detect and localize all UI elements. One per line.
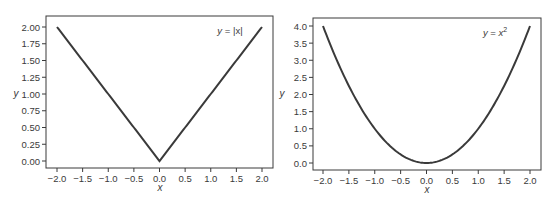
y-tick-label: 3.5 xyxy=(294,38,307,49)
y-axis-ticks: 0.00.51.01.52.02.53.03.54.0 xyxy=(294,21,313,169)
y-tick-label: 4.0 xyxy=(294,21,307,32)
plot-area xyxy=(313,18,541,170)
x-tick-label: 2.0 xyxy=(255,173,268,184)
x-tick-label: 0.5 xyxy=(179,173,192,184)
x-tick-label: 1.5 xyxy=(230,173,243,184)
x-tick-label: 0.5 xyxy=(446,175,459,186)
x-tick-label: −1.5 xyxy=(339,175,358,186)
x-tick-label: 1.0 xyxy=(204,173,217,184)
y-tick-label: 1.0 xyxy=(294,123,307,134)
y-tick-label: 2.5 xyxy=(294,72,307,83)
y-tick-label: 2.0 xyxy=(294,89,307,100)
y-tick-label: 1.50 xyxy=(22,55,41,66)
x-axis-label: x xyxy=(424,184,431,195)
x-tick-label: 2.0 xyxy=(523,175,536,186)
y-tick-label: 0.75 xyxy=(22,105,41,116)
y-tick-label: 0.50 xyxy=(22,122,41,133)
y-tick-label: 0.25 xyxy=(22,139,41,150)
y-tick-label: 0.00 xyxy=(22,156,41,167)
y-tick-label: 0.0 xyxy=(294,158,307,169)
x-tick-label: −1.0 xyxy=(99,173,118,184)
x-tick-label: 1.5 xyxy=(498,175,511,186)
function-annotation: y = |x| xyxy=(216,25,242,36)
x-tick-label: −0.5 xyxy=(391,175,410,186)
y-axis-label: y xyxy=(13,88,20,99)
chart-square: 0.00.51.01.52.02.53.03.54.0 −2.0−1.5−1.0… xyxy=(279,18,542,195)
y-tick-label: 1.5 xyxy=(294,106,307,117)
x-axis-label: x xyxy=(157,182,164,193)
y-tick-label: 1.25 xyxy=(22,72,41,83)
y-tick-label: 3.0 xyxy=(294,55,307,66)
plot-area xyxy=(46,16,273,168)
y-tick-label: 1.00 xyxy=(22,89,41,100)
x-tick-label: −1.0 xyxy=(365,175,384,186)
figure: 0.000.250.500.751.001.251.501.752.00 −2.… xyxy=(0,0,552,206)
y-axis-ticks: 0.000.250.500.751.001.251.501.752.00 xyxy=(22,22,47,167)
y-axis-label: y xyxy=(279,88,286,99)
x-tick-label: −2.0 xyxy=(48,173,67,184)
y-tick-label: 0.5 xyxy=(294,140,307,151)
x-tick-label: −1.5 xyxy=(73,173,92,184)
chart-abs: 0.000.250.500.751.001.251.501.752.00 −2.… xyxy=(13,16,274,193)
y-tick-label: 1.75 xyxy=(22,38,41,49)
x-tick-label: −2.0 xyxy=(314,175,333,186)
y-tick-label: 2.00 xyxy=(22,22,41,33)
x-tick-label: −0.5 xyxy=(124,173,143,184)
x-tick-label: 1.0 xyxy=(472,175,485,186)
